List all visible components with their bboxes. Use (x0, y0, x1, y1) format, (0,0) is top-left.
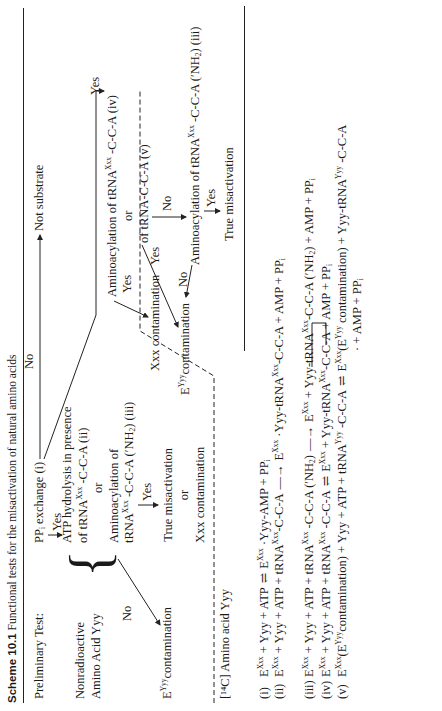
equation-row: (iii)EXxx + Yyy + ATP + tRNAXxx -C-C-A (… (302, 178, 317, 699)
equation-row: (ii)EXxx + Yyy + ATP + tRNAXxx-C-C-A—→EX… (272, 258, 287, 699)
arrow-radio-yes-mid (142, 245, 178, 327)
equation-rhs: EXxx ·Yyy-tRNAXxx-C-C-A + AMP + PPi (272, 258, 286, 460)
equation-lhs: EXxx + Yyy + ATP (257, 587, 271, 677)
equation-arrow: ⇌ (335, 375, 349, 385)
equation-number: (v) (335, 677, 350, 699)
equation-number: (ii) (272, 677, 287, 699)
equation-rule (244, 6, 245, 351)
equation-number: (iii) (302, 677, 317, 699)
equation-row: (v)EXxx(EYyycontamination) + Yyy + ATP +… (334, 125, 350, 699)
equation-row: · + AMP + PPi (350, 278, 365, 381)
equation-lhs: EXxx + Yyy + ATP + tRNAXxx-C-C-A (272, 493, 286, 677)
flow-connectors (0, 0, 442, 711)
equation-rhs: EXxx + Yyy-tRNAXxx-C-C-A + AMP + PPi (319, 264, 333, 472)
equation-lhs: EXxx(EYyycontamination) + Yyy + ATP + tR… (335, 390, 349, 677)
arrow-radio-yes-left (114, 301, 148, 317)
equation-rhs: · + AMP + PPi (350, 278, 364, 351)
equation-rhs: EXxx(EYyy contamination) + Yyy-tRNAYyy -… (335, 125, 349, 372)
equation-row: (iv)EXxx + Yyy + ATP + tRNAXxx -C-C-A⇌EX… (318, 264, 334, 699)
equation-lhs: EXxx + Yyy + ATP + tRNAXxx -C-C-A (319, 490, 333, 677)
equation-arrow: —→ (302, 426, 316, 451)
equation-row: (i)EXxx + Yyy + ATP⇌EXxx ·Yyy-AMP + PPi (256, 459, 272, 699)
equation-rhs: EXxx ·Yyy-AMP + PPi (257, 459, 271, 568)
equation-lhs: EXxx + Yyy + ATP + tRNAXxx -C-C-A (′NH2) (302, 455, 316, 677)
equation-arrow: ⇌ (257, 573, 271, 583)
equation-number: (iv) (319, 677, 334, 699)
arrow-nonradio-no (118, 559, 160, 625)
equation-rhs: EXxx + Yyy-tRNAXxx-C-C-A (′NH2) + AMP + … (302, 178, 316, 422)
scheme-page: Scheme 10.1 Functional tests for the mis… (0, 0, 442, 711)
arrow-radio-no-2 (186, 265, 192, 297)
equation-number: (i) (257, 677, 272, 699)
equation-arrow: —→ (272, 464, 286, 489)
line-to-radio (44, 91, 104, 459)
equation-arrow: ⇌ (319, 476, 333, 486)
